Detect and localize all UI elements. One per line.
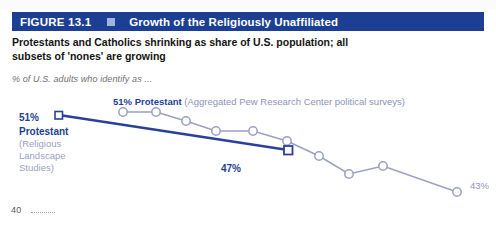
data-point [182,117,190,125]
annotation-pew-end-value: 43% [470,180,489,191]
data-point [119,108,127,116]
figure-header-bar: FIGURE 13.1 Growth of the Religiously Un… [12,12,484,31]
annotation-rls-series: 51% Protestant (Religious Landscape Stud… [19,110,93,174]
data-point [379,162,387,170]
annotation-pew-series: 51% Protestant (Aggregated Pew Research … [113,96,405,107]
y-axis-tick-40: 40 [11,205,22,215]
annotation-rls-end-value: 47% [221,163,241,174]
data-point-end [284,146,293,155]
figure-title: Growth of the Religiously Unaffiliated [129,16,338,28]
annotation-rls-name: Protestant [19,126,93,139]
annotation-pew-value: 51% Protestant [113,96,182,107]
data-point [152,108,160,116]
figure-unit-note: % of U.S. adults who identify as ... [12,74,152,84]
data-point [453,188,461,196]
annotation-pew-source: (Aggregated Pew Research Center politica… [184,96,405,107]
figure-page: FIGURE 13.1 Growth of the Religiously Un… [0,0,496,238]
annotation-rls-source-line-1: (Religious [19,138,93,150]
square-bullet-icon [107,18,115,26]
annotation-rls-value: 51% [19,112,39,123]
data-point [315,152,323,160]
annotation-rls-source-line-2: Landscape [19,150,93,162]
data-point [345,170,353,178]
data-point [249,127,257,135]
data-point [283,137,291,145]
figure-subtitle: Protestants and Catholics shrinking as s… [12,36,378,63]
y-axis-gridline-40 [31,212,55,213]
figure-number: FIGURE 13.1 [20,16,91,28]
data-point [212,127,220,135]
annotation-rls-source-line-3: Studies) [19,162,93,174]
paper-margin [0,0,496,9]
